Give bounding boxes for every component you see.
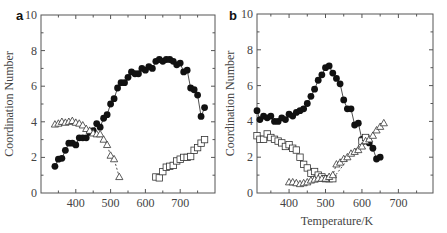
- y-axis-label: Coordination Number: [2, 51, 16, 157]
- x-tick-label: 700: [389, 196, 407, 210]
- y-axis-label: Coordination Number: [223, 51, 237, 157]
- data-point-circle: [97, 124, 104, 131]
- data-point-circle: [304, 100, 311, 107]
- data-point-circle: [348, 105, 355, 112]
- data-point-circle: [58, 155, 65, 162]
- y-tick-label: 2: [31, 150, 37, 164]
- data-point-circle: [308, 93, 315, 100]
- data-point-square: [187, 153, 193, 159]
- x-axis-label: Temperature/K: [301, 214, 374, 228]
- data-point-circle: [254, 107, 261, 114]
- plot-frame: [41, 15, 215, 193]
- data-point-circle: [369, 145, 376, 152]
- y-tick-label: 6: [31, 79, 37, 93]
- data-point-circle: [326, 63, 333, 70]
- data-point-circle: [62, 147, 69, 154]
- x-tick-label: 400: [67, 196, 85, 210]
- x-tick-label: 700: [171, 196, 189, 210]
- x-tick-label: 500: [102, 196, 120, 210]
- data-point-circle: [355, 120, 362, 127]
- data-point-circle: [111, 95, 118, 102]
- data-point-square: [156, 175, 162, 181]
- panel-letter: b: [229, 8, 237, 23]
- panel-letter: a: [16, 8, 24, 23]
- x-tick-label: 600: [136, 196, 154, 210]
- data-point-circle: [201, 104, 208, 111]
- data-point-circle: [194, 92, 201, 99]
- data-point-square: [201, 136, 207, 142]
- y-tick-label: 0: [247, 186, 253, 200]
- data-point-circle: [184, 67, 191, 74]
- data-point-triangle: [380, 119, 387, 125]
- data-point-circle: [149, 65, 156, 72]
- x-tick-label: 600: [353, 196, 371, 210]
- y-tick-label: 8: [31, 44, 37, 58]
- data-point-circle: [104, 111, 111, 118]
- y-tick-label: 8: [247, 43, 253, 57]
- data-point-circle: [52, 163, 59, 170]
- y-tick-label: 0: [31, 186, 37, 200]
- y-tick-label: 2: [247, 150, 253, 164]
- figure: 4005006007000246810Coordination Numbera …: [0, 0, 447, 233]
- data-point-circle: [72, 142, 79, 149]
- data-point-triangle: [116, 173, 123, 179]
- x-tick-label: 400: [280, 196, 298, 210]
- x-tick-label: 500: [317, 196, 335, 210]
- data-point-circle: [377, 154, 384, 161]
- y-tick-label: 10: [241, 7, 253, 21]
- data-point-circle: [337, 80, 344, 87]
- data-point-circle: [198, 113, 205, 120]
- panel-a: 4005006007000246810Coordination Numbera: [2, 8, 215, 210]
- data-point-circle: [318, 71, 325, 78]
- y-tick-label: 10: [25, 8, 37, 22]
- data-point-square: [293, 147, 299, 153]
- y-tick-label: 4: [247, 114, 253, 128]
- data-point-circle: [340, 97, 347, 104]
- data-point-circle: [311, 86, 318, 93]
- data-point-square: [297, 154, 303, 160]
- panel-b: 4005006007000246810Coordination NumberTe…: [223, 7, 433, 228]
- data-point-circle: [177, 60, 184, 67]
- y-tick-label: 4: [31, 115, 37, 129]
- y-tick-label: 6: [247, 79, 253, 93]
